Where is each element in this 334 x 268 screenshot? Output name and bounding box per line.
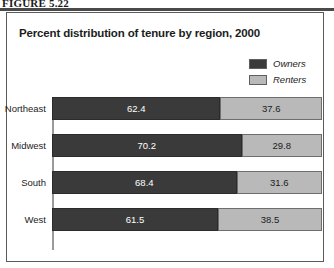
bar-row: West 61.5 38.5 (52, 208, 322, 231)
bar-value-owners: 68.4 (135, 178, 154, 188)
bar-segment-renters: 31.6 (237, 171, 322, 194)
legend-label-renters: Renters (273, 74, 306, 85)
bar-category-label: Midwest (11, 134, 52, 157)
bar-segment-owners: 70.2 (52, 134, 242, 157)
bar-value-renters: 29.8 (273, 141, 292, 151)
bar-segment-owners: 62.4 (52, 97, 220, 120)
bar-row: South 68.4 31.6 (52, 171, 322, 194)
plot-area: Northeast 62.4 37.6 Midwest 70.2 29.8 So… (7, 85, 325, 263)
bar-row: Midwest 70.2 29.8 (52, 134, 322, 157)
chart-title: Percent distribution of tenure by region… (19, 27, 260, 39)
legend-item-owners: Owners (249, 57, 321, 70)
legend-label-owners: Owners (273, 58, 306, 69)
bar-category-label: Northeast (5, 97, 52, 120)
bar-value-owners: 62.4 (127, 104, 146, 114)
bar-segment-owners: 68.4 (52, 171, 237, 194)
figure-container: FIGURE 5.22 Percent distribution of tenu… (0, 0, 334, 268)
bar-segment-owners: 61.5 (52, 208, 218, 231)
bar-category-label: South (21, 171, 52, 194)
bar-segment-renters: 37.6 (220, 97, 322, 120)
legend-swatch-owners (249, 59, 267, 69)
caption-divider-rule (0, 8, 334, 11)
legend-swatch-renters (249, 75, 267, 85)
bar-category-label: West (25, 208, 52, 231)
bar-segment-renters: 38.5 (218, 208, 322, 231)
bar-value-renters: 37.6 (262, 104, 281, 114)
bar-segment-renters: 29.8 (242, 134, 322, 157)
bar-value-owners: 61.5 (126, 215, 145, 225)
bar-value-owners: 70.2 (138, 141, 157, 151)
bar-value-renters: 31.6 (270, 178, 289, 188)
bar-value-renters: 38.5 (261, 215, 280, 225)
bar-row: Northeast 62.4 37.6 (52, 97, 322, 120)
chart-frame: Percent distribution of tenure by region… (6, 12, 324, 262)
